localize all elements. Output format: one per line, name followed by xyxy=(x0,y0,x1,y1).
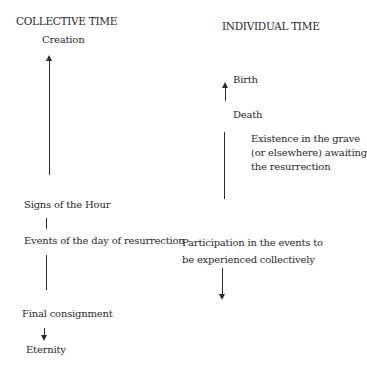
label-birth: Birth xyxy=(233,74,258,86)
label-participation-line-2: be experienced collectively xyxy=(182,254,315,266)
arrow-down-head-eternity-icon xyxy=(41,335,47,341)
label-eternity: Eternity xyxy=(26,344,66,356)
line-grave-period xyxy=(224,132,225,199)
line-participation-down xyxy=(222,268,223,294)
line-events-to-final xyxy=(46,255,47,290)
label-final-consignment: Final consignment xyxy=(22,308,113,320)
label-signs-of-the-hour: Signs of the Hour xyxy=(24,199,110,211)
label-death: Death xyxy=(233,109,262,121)
label-grave-line-3: the resurrection xyxy=(251,161,330,173)
heading-collective-time: COLLECTIVE TIME xyxy=(16,15,117,27)
label-events-of-resurrection: Events of the day of resurrection xyxy=(24,235,185,247)
arrow-down-head-participation-icon xyxy=(219,294,225,300)
label-grave-line-2: (or elsewhere) awaiting xyxy=(251,147,367,159)
label-participation-line-1: Participation in the events to xyxy=(182,237,323,249)
heading-individual-time: INDIVIDUAL TIME xyxy=(222,20,320,32)
line-creation-to-signs xyxy=(49,60,50,175)
label-creation: Creation xyxy=(42,34,84,46)
label-grave-line-1: Existence in the grave xyxy=(251,133,360,145)
line-signs-to-events xyxy=(46,218,47,229)
line-death-to-birth xyxy=(225,87,226,101)
